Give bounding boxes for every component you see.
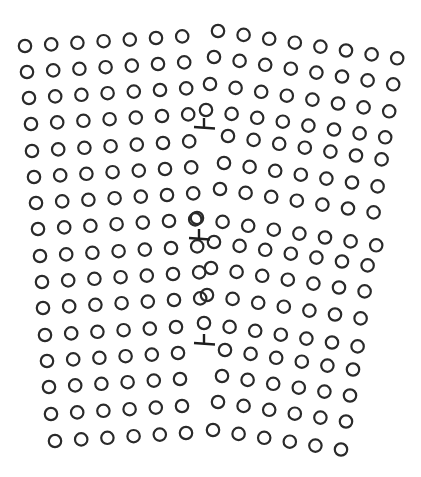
background xyxy=(0,0,421,477)
grain-boundary-diagram xyxy=(0,0,421,477)
